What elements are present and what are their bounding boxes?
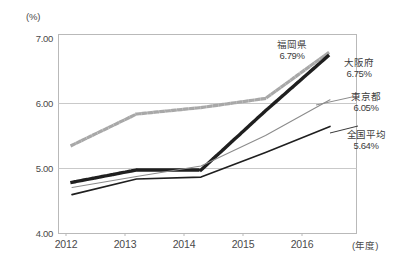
series-label-national-value: 5.64%	[338, 141, 394, 152]
series-label-national: 全国平均 5.64%	[338, 130, 394, 152]
series-label-osaka-value: 6.75%	[333, 69, 385, 80]
series-line-national	[72, 126, 330, 194]
series-label-tokyo-value: 6.05%	[340, 103, 392, 114]
series-label-osaka: 大阪府 6.75%	[333, 58, 385, 80]
series-label-tokyo: 東京都 6.05%	[340, 92, 392, 114]
series-line-osaka	[72, 54, 330, 182]
series-line-fukuoka	[72, 52, 330, 146]
series-label-fukuoka: 福岡県 6.79%	[266, 40, 318, 62]
line-chart: (%) 7.00 6.00 5.00 4.00 2012 2013 2014 2…	[0, 0, 398, 266]
series-label-fukuoka-value: 6.79%	[266, 51, 318, 62]
gridlines	[59, 104, 357, 169]
